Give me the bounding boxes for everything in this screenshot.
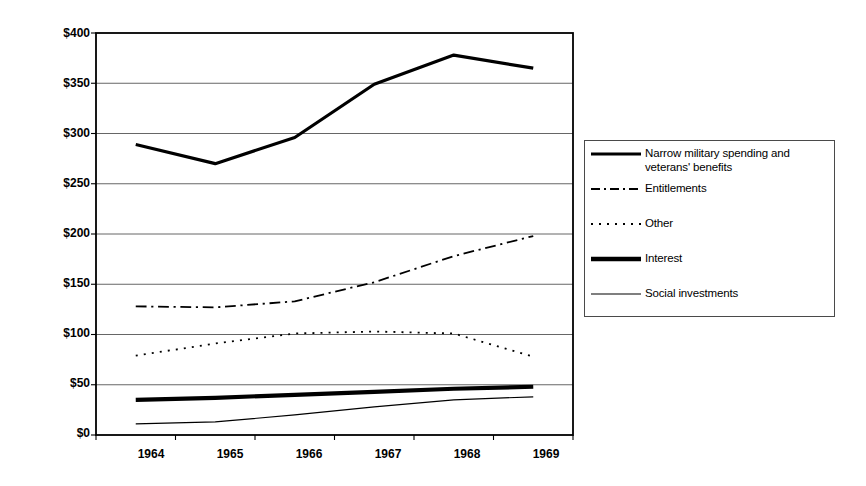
solid-thick-line-icon xyxy=(590,252,642,266)
series-line xyxy=(136,55,534,164)
legend-label: Narrow military spending and veterans' b… xyxy=(645,147,830,174)
chart-figure: Constant 1992 dollars (in billions) $400… xyxy=(0,0,866,486)
legend-entry[interactable]: Social investments xyxy=(590,287,830,301)
dotted-line-icon xyxy=(590,217,642,231)
axis-tick-marks xyxy=(91,33,573,440)
legend-entry[interactable]: Other xyxy=(590,217,830,231)
legend-label: Social investments xyxy=(645,287,738,301)
solid-medium-line-icon xyxy=(590,147,642,161)
series-line xyxy=(136,236,534,307)
series-line xyxy=(136,397,534,424)
chart-legend: Narrow military spending and veterans' b… xyxy=(584,140,835,317)
series-line xyxy=(136,331,534,356)
legend-label: Other xyxy=(645,217,673,231)
solid-thin-line-icon xyxy=(590,287,642,301)
series-line xyxy=(136,387,534,400)
legend-entry[interactable]: Interest xyxy=(590,252,830,266)
data-series-layer xyxy=(136,55,534,424)
gridlines xyxy=(96,83,573,385)
legend-entry[interactable]: Narrow military spending and veterans' b… xyxy=(590,147,830,174)
legend-label: Interest xyxy=(645,252,682,266)
legend-entry[interactable]: Entitlements xyxy=(590,182,830,196)
dash-dot-line-icon xyxy=(590,182,642,196)
legend-label: Entitlements xyxy=(645,182,706,196)
